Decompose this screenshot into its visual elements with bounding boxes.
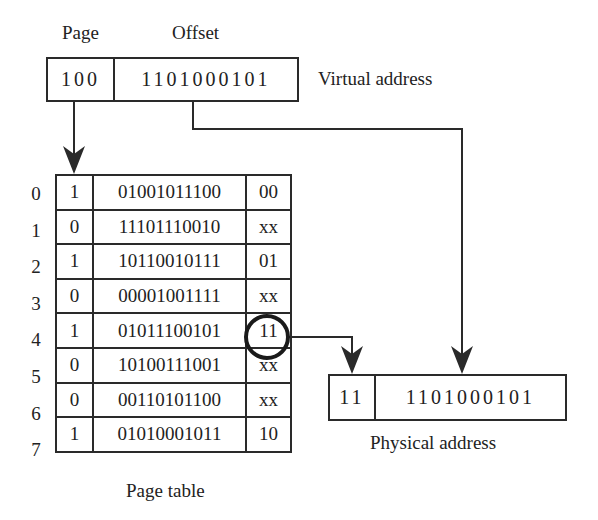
connector-arrows [0, 0, 598, 520]
offset-route-line [193, 101, 462, 360]
highlight-circle-icon [246, 316, 288, 358]
